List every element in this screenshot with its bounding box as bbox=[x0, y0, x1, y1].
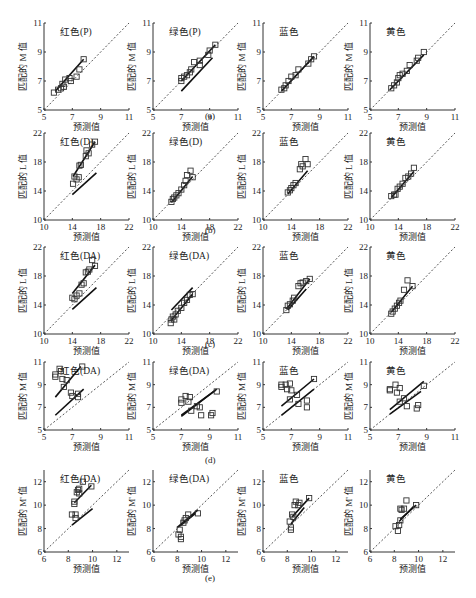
panel-e-4: 681012681012预测值匹配的 M' 值黄色 bbox=[343, 470, 455, 574]
identity-line bbox=[370, 247, 455, 334]
panel-a-2: 5791157911预测值匹配的 M 值绿色(P) bbox=[126, 18, 242, 132]
x-tick-label: 10 bbox=[414, 554, 424, 564]
x-axis-label: 预测值 bbox=[292, 563, 319, 574]
x-tick-label: 14 bbox=[177, 222, 187, 232]
x-tick-label: 7 bbox=[70, 112, 75, 122]
panel-a-4: 5791157911预测值匹配的 M 值黄色 bbox=[343, 18, 459, 132]
y-axis-label: 匹配的 L 值 bbox=[126, 268, 137, 314]
y-axis-label: 匹配的 M 值 bbox=[236, 42, 247, 91]
y-tick-label: 8 bbox=[364, 524, 369, 534]
panel-e-3: 681012681012预测值匹配的 M' 值蓝色 bbox=[236, 470, 348, 574]
y-tick-label: 22 bbox=[142, 128, 151, 138]
y-tick-label: 10 bbox=[359, 215, 369, 225]
y-axis-label: 匹配的 L 值 bbox=[343, 268, 354, 314]
data-point bbox=[401, 287, 406, 292]
y-tick-label: 14 bbox=[142, 186, 152, 196]
y-tick-label: 6 bbox=[38, 547, 43, 557]
data-point bbox=[72, 297, 77, 302]
x-tick-label: 10 bbox=[197, 554, 207, 564]
fit-line bbox=[171, 177, 192, 203]
panel-a-1: 5791157911预测值匹配的 M 值红色(P) bbox=[17, 18, 133, 132]
data-point bbox=[416, 402, 421, 407]
x-tick-label: 22 bbox=[125, 222, 134, 232]
panel-d-3: 5791157911预测值匹配的 M 值蓝色 bbox=[236, 357, 352, 452]
x-tick-label: 14 bbox=[394, 336, 404, 346]
panel-b-3: 1014182210141822预测值匹配的 L 值蓝色 bbox=[236, 128, 353, 242]
data-point bbox=[179, 400, 184, 405]
data-point bbox=[404, 498, 409, 503]
x-axis-label: 预测值 bbox=[292, 345, 319, 356]
x-tick-label: 7 bbox=[396, 112, 401, 122]
y-axis-label: 匹配的 M' 值 bbox=[236, 486, 247, 536]
panel-title: 绿色(DA) bbox=[169, 365, 209, 377]
x-tick-label: 6 bbox=[42, 554, 47, 564]
y-axis-label: 匹配的 M 值 bbox=[343, 372, 354, 421]
y-tick-label: 10 bbox=[359, 329, 369, 339]
x-tick-label: 11 bbox=[344, 432, 353, 442]
y-tick-label: 6 bbox=[257, 547, 262, 557]
y-tick-label: 11 bbox=[359, 18, 368, 28]
x-tick-label: 8 bbox=[285, 554, 290, 564]
panel-title: 蓝色 bbox=[279, 250, 299, 261]
y-axis-label: 匹配的 M 值 bbox=[343, 42, 354, 91]
panel-title: 黄色 bbox=[386, 136, 406, 147]
y-tick-label: 5 bbox=[38, 425, 43, 435]
y-tick-label: 22 bbox=[359, 128, 368, 138]
y-tick-label: 22 bbox=[33, 242, 42, 252]
x-tick-label: 7 bbox=[289, 112, 294, 122]
y-tick-label: 14 bbox=[33, 186, 43, 196]
identity-line bbox=[263, 470, 348, 552]
identity-line bbox=[263, 133, 348, 220]
x-tick-label: 14 bbox=[287, 336, 297, 346]
data-point bbox=[304, 405, 309, 410]
data-point bbox=[421, 383, 426, 388]
y-tick-label: 5 bbox=[147, 425, 152, 435]
panel-d-4: 5791157911预测值匹配的 M 值黄色 bbox=[343, 357, 459, 452]
x-tick-label: 8 bbox=[392, 554, 397, 564]
row-label: (e) bbox=[205, 573, 215, 583]
y-tick-label: 9 bbox=[38, 380, 43, 390]
panel-title: 蓝色 bbox=[279, 26, 299, 37]
row-label: (b) bbox=[205, 225, 216, 235]
y-tick-label: 18 bbox=[142, 271, 152, 281]
panel-title: 绿色(P) bbox=[169, 26, 201, 38]
y-axis-label: 匹配的 L 值 bbox=[343, 154, 354, 200]
x-axis-label: 预测值 bbox=[399, 563, 426, 574]
y-axis-label: 匹配的 M' 值 bbox=[343, 486, 354, 536]
x-tick-label: 9 bbox=[207, 432, 212, 442]
x-tick-label: 22 bbox=[234, 222, 243, 232]
y-axis-label: 匹配的 M' 值 bbox=[17, 486, 28, 536]
x-tick-label: 11 bbox=[344, 112, 353, 122]
y-tick-label: 14 bbox=[142, 300, 152, 310]
panel-c-2: 1014182210141822预测值匹配的 L 值绿色(DA) bbox=[126, 242, 243, 356]
x-tick-label: 14 bbox=[68, 222, 78, 232]
panel-c-3: 1014182210141822预测值匹配的 L 值蓝色 bbox=[236, 242, 353, 356]
x-tick-label: 12 bbox=[331, 554, 340, 564]
row-label: (d) bbox=[205, 455, 216, 465]
x-tick-label: 12 bbox=[438, 554, 447, 564]
x-tick-label: 11 bbox=[234, 432, 243, 442]
panel-title: 红色(DA) bbox=[60, 250, 100, 262]
panel-title: 黄色 bbox=[386, 250, 406, 261]
y-axis-label: 匹配的 L 值 bbox=[17, 154, 28, 200]
panel-title: 绿色(DA) bbox=[169, 250, 209, 262]
x-axis-label: 预测值 bbox=[399, 121, 426, 132]
x-axis-label: 预测值 bbox=[292, 121, 319, 132]
x-axis-label: 预测值 bbox=[73, 345, 100, 356]
y-tick-label: 12 bbox=[359, 477, 368, 487]
x-tick-label: 9 bbox=[317, 112, 322, 122]
y-tick-label: 22 bbox=[252, 242, 261, 252]
y-axis-label: 匹配的 L 值 bbox=[126, 154, 137, 200]
y-tick-label: 14 bbox=[252, 300, 262, 310]
x-tick-label: 5 bbox=[261, 432, 266, 442]
y-tick-label: 14 bbox=[252, 186, 262, 196]
y-axis-label: 匹配的 M 值 bbox=[126, 42, 137, 91]
x-axis-label: 预测值 bbox=[399, 231, 426, 242]
y-tick-label: 9 bbox=[147, 47, 152, 57]
y-tick-label: 5 bbox=[364, 105, 369, 115]
x-axis-label: 预测值 bbox=[182, 121, 209, 132]
y-tick-label: 7 bbox=[257, 76, 262, 86]
x-tick-label: 9 bbox=[424, 432, 429, 442]
figure-grid: 5791157911预测值匹配的 M 值红色(P)5791157911预测值匹配… bbox=[0, 0, 476, 598]
y-tick-label: 12 bbox=[142, 477, 151, 487]
